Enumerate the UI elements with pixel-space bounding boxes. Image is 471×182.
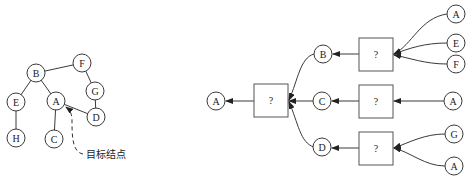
svg-text:A: A bbox=[450, 161, 458, 172]
svg-text:B: B bbox=[320, 49, 327, 60]
svg-text:C: C bbox=[319, 96, 326, 107]
input-node-a-3: A bbox=[445, 157, 463, 175]
edge-a-to-box3 bbox=[394, 148, 445, 166]
edge-g-to-box3 bbox=[394, 134, 445, 148]
edge-b-to-center bbox=[289, 54, 314, 100]
input-node-a-1: A bbox=[447, 5, 465, 23]
svg-text:?: ? bbox=[374, 49, 379, 60]
left-node-g: G bbox=[86, 82, 104, 100]
branch-node-b: B bbox=[314, 45, 332, 63]
output-node-a: A bbox=[207, 92, 225, 110]
input-node-g: G bbox=[445, 125, 463, 143]
svg-text:F: F bbox=[79, 58, 85, 69]
center-box: ? bbox=[254, 84, 288, 117]
svg-text:A: A bbox=[212, 96, 220, 107]
left-node-a: A bbox=[47, 92, 65, 110]
edge-d-to-center bbox=[289, 102, 314, 147]
left-node-c: C bbox=[45, 130, 63, 148]
svg-text:E: E bbox=[453, 38, 459, 49]
input-node-f: F bbox=[447, 55, 465, 73]
diagram-canvas: B F G E A D H C 目标结点 A ? B ? bbox=[0, 0, 471, 182]
left-node-d: D bbox=[87, 108, 105, 126]
svg-text:?: ? bbox=[269, 95, 274, 106]
branch-box-b: ? bbox=[359, 38, 393, 71]
svg-text:H: H bbox=[12, 133, 19, 144]
input-node-e: E bbox=[447, 34, 465, 52]
branch-node-d: D bbox=[313, 138, 331, 156]
left-node-b: B bbox=[27, 64, 45, 82]
svg-text:B: B bbox=[33, 68, 40, 79]
svg-text:A: A bbox=[452, 9, 460, 20]
left-graph: B F G E A D H C 目标结点 bbox=[7, 54, 126, 160]
left-node-h: H bbox=[7, 129, 25, 147]
svg-text:D: D bbox=[92, 112, 99, 123]
svg-text:A: A bbox=[52, 96, 60, 107]
input-node-a-2: A bbox=[444, 92, 462, 110]
left-node-f: F bbox=[73, 54, 91, 72]
svg-text:E: E bbox=[13, 97, 19, 108]
branch-node-c: C bbox=[313, 92, 331, 110]
svg-text:D: D bbox=[318, 142, 325, 153]
edge-a-to-box1 bbox=[394, 14, 447, 54]
svg-text:?: ? bbox=[374, 96, 379, 107]
svg-text:A: A bbox=[449, 96, 457, 107]
target-node-label: 目标结点 bbox=[86, 148, 126, 160]
svg-text:F: F bbox=[453, 59, 459, 70]
svg-text:G: G bbox=[91, 86, 98, 97]
branch-box-c: ? bbox=[359, 85, 393, 118]
svg-text:C: C bbox=[51, 134, 58, 145]
svg-text:G: G bbox=[450, 129, 457, 140]
svg-text:?: ? bbox=[374, 143, 379, 154]
right-diagram: A ? B ? A E F C ? A D bbox=[207, 5, 465, 175]
left-node-e: E bbox=[7, 93, 25, 111]
branch-box-d: ? bbox=[359, 132, 393, 165]
target-dashed-arrow bbox=[66, 107, 83, 154]
edge-f-to-box1 bbox=[394, 55, 447, 64]
